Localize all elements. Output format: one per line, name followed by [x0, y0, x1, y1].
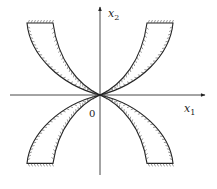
hatch-mark: [62, 57, 63, 60]
lower-left-region: [27, 94, 100, 166]
hatch-mark: [56, 142, 58, 144]
hatch-mark: [59, 113, 62, 114]
hatch-mark: [135, 125, 136, 128]
hatch-mark: [144, 146, 146, 148]
hatch-mark: [82, 88, 85, 90]
hatch-mark: [63, 60, 64, 63]
region-boundary: [27, 23, 100, 95]
hatch-mark: [56, 72, 59, 73]
hatch-mark: [53, 70, 56, 71]
hatch-mark: [128, 114, 129, 117]
hatch-mark: [144, 119, 147, 120]
hatch-mark: [130, 69, 131, 72]
hatch-mark: [67, 119, 68, 122]
x2-axis-label: x2: [108, 8, 119, 22]
hatch-mark: [134, 77, 137, 78]
hatch-mark: [119, 86, 122, 87]
hatch-mark: [141, 138, 143, 141]
hatch-mark: [69, 69, 70, 72]
hatch-mark: [78, 86, 81, 87]
hatch-mark: [66, 109, 69, 110]
hatch-mark: [73, 74, 74, 77]
hatch-mark: [58, 50, 60, 53]
hatch-mark: [141, 72, 144, 73]
hatch-mark: [65, 122, 66, 125]
region-boundary: [27, 95, 100, 163]
hatch-mark: [143, 142, 145, 144]
hatch-mark: [70, 106, 73, 107]
hatch-mark: [76, 109, 77, 112]
hatch-mark: [63, 111, 66, 112]
hatch-mark: [139, 132, 140, 135]
hatch-mark: [123, 84, 126, 85]
hatch-mark: [82, 101, 85, 103]
hatch-mark: [56, 43, 58, 45]
hatch-mark: [131, 109, 134, 110]
hatch-mark: [137, 57, 138, 60]
diagram-canvas: [0, 0, 217, 189]
hatch-mark: [147, 121, 150, 122]
hatch-mark: [74, 104, 77, 105]
hatch-mark: [123, 104, 126, 105]
hatch-mark: [74, 84, 77, 85]
hatch-mark: [119, 102, 122, 103]
hatch-mark: [139, 54, 140, 57]
hatch-mark: [134, 63, 135, 66]
hatch-mark: [144, 70, 147, 71]
hatch-mark: [63, 77, 66, 78]
hatch-mark: [140, 50, 142, 53]
hatch-mark: [130, 117, 131, 120]
hatch-mark: [60, 54, 61, 57]
hatch-mark: [132, 119, 133, 122]
hatch-mark: [70, 82, 73, 83]
hatch-mark: [127, 106, 130, 107]
hatch-mark: [124, 77, 125, 80]
hatch-mark: [126, 112, 127, 115]
hatch-mark: [55, 39, 57, 41]
hatch-mark: [135, 60, 136, 63]
hatch-mark: [53, 119, 56, 120]
hatch-mark: [138, 75, 141, 76]
hatch-mark: [63, 125, 64, 128]
hatch-mark: [71, 114, 72, 117]
lower-right-region: [100, 94, 174, 166]
hatch-mark: [132, 66, 133, 69]
x1-axis-label: x1: [184, 103, 195, 117]
hatch-mark: [76, 77, 77, 80]
hatch-mark: [66, 80, 69, 81]
hatch-mark: [60, 132, 61, 135]
hatch-mark: [124, 109, 125, 112]
origin-label: 0: [89, 109, 95, 119]
hatch-mark: [65, 63, 66, 66]
hatch-mark: [141, 116, 144, 117]
hatch-mark: [115, 88, 118, 90]
hatch-mark: [56, 116, 59, 117]
hatch-mark: [50, 121, 53, 122]
hatch-mark: [134, 122, 135, 125]
hatch-mark: [115, 101, 118, 103]
hatch-mark: [69, 117, 70, 120]
hatch-mark: [59, 135, 61, 138]
hatch-mark: [141, 47, 143, 50]
hatch-mark: [144, 39, 146, 41]
hatch-mark: [73, 112, 74, 115]
region-boundary: [100, 23, 173, 95]
region-boundary: [100, 95, 173, 163]
hatch-mark: [138, 113, 141, 114]
hatch-mark: [67, 66, 68, 69]
hatch-mark: [137, 128, 138, 131]
upper-right-region: [100, 20, 174, 95]
hatch-mark: [143, 43, 145, 45]
hatch-mark: [131, 80, 134, 81]
hatch-mark: [57, 47, 59, 50]
hatch-mark: [59, 75, 62, 76]
upper-left-region: [27, 20, 100, 95]
hatch-mark: [134, 111, 137, 112]
hatch-mark: [140, 135, 142, 138]
hatch-mark: [78, 102, 81, 103]
hatch-mark: [128, 72, 129, 75]
hatch-mark: [126, 74, 127, 77]
hatch-mark: [57, 138, 59, 141]
hatch-mark: [55, 146, 57, 148]
hatch-mark: [127, 82, 130, 83]
